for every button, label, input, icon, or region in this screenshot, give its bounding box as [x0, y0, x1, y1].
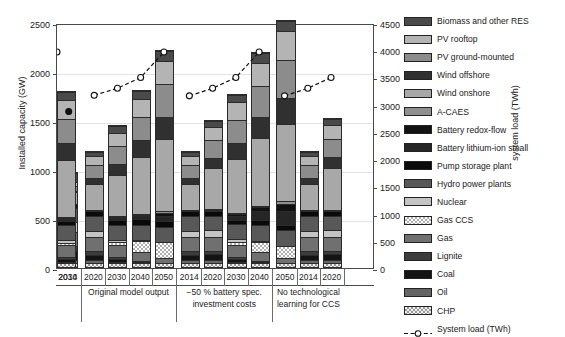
- bar-segment: [58, 119, 75, 143]
- bar-segment: [182, 184, 199, 211]
- category-axis-label: 2014: [178, 269, 201, 286]
- bar-segment: [133, 117, 150, 141]
- bar-segment: [228, 143, 245, 159]
- y-axis-left-tick-label: 500: [35, 217, 50, 226]
- legend-color-swatch: [404, 89, 432, 98]
- legend-item[interactable]: Pump storage plant: [404, 157, 562, 175]
- legend-item-label: Battery lithium-ion small: [437, 143, 528, 153]
- stacked-bar[interactable]: [108, 125, 127, 268]
- bar-segment: [301, 165, 318, 177]
- scenario-group-label: −50 % battery spec. investment costs: [178, 287, 272, 310]
- y-axis-right-tick-label: 2000: [380, 157, 400, 166]
- stacked-bar[interactable]: [85, 151, 104, 268]
- bar-segment: [86, 156, 103, 165]
- y-axis-right-tick-label: 4000: [380, 48, 400, 57]
- legend-item[interactable]: Lignite: [404, 247, 562, 265]
- stacked-bar[interactable]: [57, 91, 76, 268]
- legend-item-label: Pump storage plant: [437, 161, 512, 171]
- stacked-bar[interactable]: [155, 50, 174, 268]
- legend-color-swatch: [404, 216, 432, 225]
- y-axis-right-tick: [373, 216, 377, 217]
- y-axis-left-tick-label: 1500: [30, 119, 50, 128]
- bar-segment: [156, 61, 173, 85]
- legend-item[interactable]: CHP: [404, 302, 562, 320]
- stacked-bar[interactable]: [204, 120, 223, 268]
- bar-segment: [205, 263, 222, 267]
- bar-segment: [109, 146, 126, 164]
- legend-item[interactable]: Gas: [404, 229, 562, 247]
- category-axis-label: 2040: [248, 269, 271, 286]
- y-axis-right-tick: [373, 107, 377, 108]
- bar-segment: [252, 63, 269, 86]
- stacked-bar[interactable]: [132, 90, 151, 268]
- y-axis-right-tick: [373, 52, 377, 53]
- legend-item[interactable]: Biomass and other RES: [404, 12, 562, 30]
- bar-segment: [252, 211, 269, 220]
- bar-segment: [133, 252, 150, 261]
- legend-color-swatch: [404, 35, 432, 44]
- bar-segment: [133, 241, 150, 252]
- legend-item[interactable]: Battery lithium-ion small: [404, 139, 562, 157]
- bar-segment: [324, 157, 341, 168]
- stacked-bar[interactable]: [227, 94, 246, 268]
- bar-segment: [228, 95, 245, 103]
- legend-item[interactable]: Wind offshore: [404, 66, 562, 84]
- bar-segment: [182, 156, 199, 165]
- legend-item[interactable]: A-CAES: [404, 102, 562, 120]
- bar-segment: [156, 51, 173, 61]
- category-axis-label: 2020: [201, 269, 224, 286]
- bar-segment: [86, 184, 103, 211]
- bar-segment: [86, 263, 103, 267]
- bar-segment: [205, 237, 222, 250]
- legend-item[interactable]: System load (TWh): [404, 320, 562, 337]
- scenario-group-label: No technological learning for CCS: [273, 287, 343, 310]
- bar-segment: [133, 140, 150, 157]
- legend-item[interactable]: Battery redox-flow: [404, 121, 562, 139]
- y-axis-left-tick-label: 2500: [30, 21, 50, 30]
- legend-item[interactable]: Coal: [404, 265, 562, 283]
- bar-series-layer: [57, 25, 373, 268]
- category-axis-label: 2020: [82, 269, 105, 286]
- legend-item[interactable]: Gas CCS: [404, 211, 562, 229]
- stacked-bar[interactable]: [251, 52, 270, 268]
- legend-item-label: Wind offshore: [437, 70, 490, 80]
- y-axis-right-tick: [373, 243, 377, 244]
- legend-item-label: PV rooftop: [437, 34, 478, 44]
- bar-segment: [277, 124, 294, 202]
- category-divider: [344, 269, 345, 286]
- category-axis-label: 2020: [320, 269, 343, 286]
- legend-item[interactable]: PV rooftop: [404, 30, 562, 48]
- bar-segment: [324, 168, 341, 210]
- legend-item-label: Biomass and other RES: [437, 16, 529, 26]
- legend-color-swatch: [404, 125, 432, 134]
- bar-segment: [277, 263, 294, 267]
- legend-color-swatch: [404, 53, 432, 62]
- bar-segment: [156, 139, 173, 211]
- legend-color-swatch: [404, 288, 432, 297]
- bar-segment: [252, 86, 269, 117]
- stacked-bar[interactable]: [276, 20, 295, 268]
- bar-segment: [228, 159, 245, 213]
- bar-segment: [277, 98, 294, 124]
- bar-segment: [156, 263, 173, 267]
- legend-item-label: Battery redox-flow: [437, 125, 506, 135]
- legend-item[interactable]: Nuclear: [404, 193, 562, 211]
- category-axis-label: 2030: [56, 269, 79, 286]
- bar-segment: [324, 237, 341, 251]
- legend-item[interactable]: PV ground-mounted: [404, 48, 562, 66]
- bar-segment: [252, 263, 269, 267]
- legend-item[interactable]: Oil: [404, 283, 562, 301]
- chart-figure: Installed capacity (GW) system load (TWh…: [0, 0, 565, 337]
- stacked-bar[interactable]: [181, 151, 200, 268]
- legend-item[interactable]: Wind onshore: [404, 84, 562, 102]
- legend-item-label: Gas CCS: [437, 215, 473, 225]
- stacked-bar[interactable]: [323, 118, 342, 268]
- legend-item-label: Lignite: [437, 251, 462, 261]
- legend-item-label: Oil: [437, 287, 448, 297]
- legend-color-swatch: [404, 17, 432, 26]
- bar-segment: [205, 216, 222, 230]
- bar-segment: [109, 263, 126, 267]
- legend-item[interactable]: Hydro power plants: [404, 175, 562, 193]
- stacked-bar[interactable]: [300, 151, 319, 268]
- bar-segment: [301, 263, 318, 267]
